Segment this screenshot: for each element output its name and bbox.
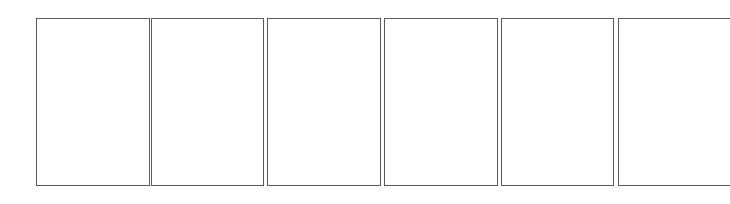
empty-panel-5 bbox=[501, 18, 614, 186]
empty-panel-3 bbox=[267, 18, 381, 186]
panel-strip bbox=[0, 0, 730, 204]
empty-panel-6 bbox=[618, 18, 730, 186]
empty-panel-1 bbox=[36, 18, 150, 186]
empty-panel-2 bbox=[151, 18, 264, 186]
empty-panel-4 bbox=[384, 18, 498, 186]
